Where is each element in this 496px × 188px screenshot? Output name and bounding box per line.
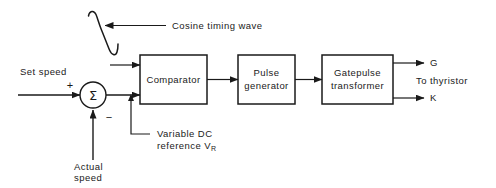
label-output-g: G — [430, 57, 438, 69]
label-set-speed: Set speed — [20, 66, 67, 78]
block-label-comparator: Comparator — [146, 74, 200, 86]
label-actual-speed-line1: Actual — [74, 161, 103, 173]
label-actual-speed-line2: speed — [74, 172, 102, 184]
block-label-gatepulse-transformer-line2: transformer — [331, 80, 384, 92]
block-label-pulse-generator-line1: Pulse — [254, 67, 280, 79]
label-to-thyristor: To thyristor — [416, 75, 468, 87]
label-variable-dc-reference-line2: reference VR — [157, 140, 216, 155]
variable-dc-reference-subscript: R — [211, 145, 216, 152]
block-diagram-canvas: Cosine timing wave Set speed + Σ − Actua… — [0, 0, 496, 188]
label-cosine-timing-wave: Cosine timing wave — [172, 20, 262, 32]
label-output-k: K — [430, 92, 437, 104]
summing-junction-plus-sign: + — [67, 79, 73, 91]
block-label-gatepulse-transformer-line1: Gatepulse — [334, 67, 381, 79]
block-label-pulse-generator-line2: generator — [244, 80, 288, 92]
label-variable-dc-reference-line1: Variable DC — [157, 128, 212, 140]
cosine-waveform-icon — [89, 11, 119, 54]
summing-junction-sigma-symbol: Σ — [89, 88, 97, 103]
summing-junction-minus-sign: − — [106, 111, 112, 123]
variable-dc-reference-text: reference V — [157, 140, 211, 151]
